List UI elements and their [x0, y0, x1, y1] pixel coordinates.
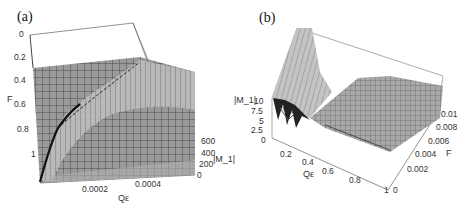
- m-tick: 200: [199, 160, 213, 169]
- f-tick: 0.002: [407, 165, 428, 174]
- surface-plot-b: (b) 10 7.5 |M_1| 5 2.5 0 0.: [240, 0, 465, 206]
- q-tick: 0.4: [302, 158, 314, 167]
- q-tick: 0.8: [349, 176, 361, 185]
- m-axis-label: |M_1|: [234, 96, 256, 105]
- f-tick: 0.004: [415, 150, 436, 159]
- q-tick: 1: [384, 186, 389, 195]
- q-tick: 0.2: [280, 150, 292, 159]
- f-tick: 1: [31, 150, 36, 159]
- m-tick: 0: [261, 136, 266, 145]
- m-tick: 600: [201, 137, 215, 146]
- f-tick: 0.006: [428, 137, 449, 146]
- surface-plot-a: (a) 0 0.2 0.4 F 0.6 0.8 1: [0, 0, 240, 206]
- f-axis-label: F: [446, 149, 452, 158]
- m-tick: 2.5: [251, 126, 263, 135]
- f-tick: 0.8: [17, 125, 29, 134]
- f-tick: 0: [19, 30, 24, 39]
- f-tick: 0.2: [14, 53, 26, 62]
- f-axis-label: F: [7, 95, 13, 104]
- m-axis-label: |M_1|: [213, 155, 235, 164]
- f-tick: 0.6: [14, 100, 26, 109]
- q-tick: 0.0002: [82, 185, 108, 194]
- surface-a-graphic: [0, 0, 240, 206]
- f-tick: 0.01: [441, 110, 458, 119]
- f-tick: 0.008: [436, 123, 457, 132]
- q-axis-label: Qε: [118, 194, 129, 203]
- q-axis-label: Qε: [303, 170, 314, 179]
- m-tick: 7.5: [251, 107, 263, 116]
- q-tick: 0.6: [322, 167, 334, 176]
- q-tick: 0.0004: [135, 180, 161, 189]
- m-tick: 0: [197, 171, 202, 180]
- f-tick: 0.4: [14, 76, 26, 85]
- f-tick: 0: [393, 186, 398, 195]
